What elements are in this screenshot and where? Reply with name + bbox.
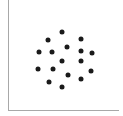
data-point [79, 37, 84, 42]
data-point [60, 30, 65, 35]
data-point [66, 73, 71, 78]
data-point [46, 38, 51, 43]
data-point [89, 69, 94, 74]
data-point [60, 85, 65, 90]
data-point [37, 50, 42, 55]
data-point [79, 49, 84, 54]
data-point [50, 50, 55, 55]
data-point [51, 67, 56, 72]
data-point [79, 59, 84, 64]
data-point [60, 59, 65, 64]
data-point [65, 45, 70, 50]
y-axis-line [8, 0, 9, 110]
data-point [79, 77, 84, 82]
data-point [47, 80, 52, 85]
data-point [90, 51, 95, 56]
x-axis-line [8, 110, 119, 111]
data-point [36, 67, 41, 72]
